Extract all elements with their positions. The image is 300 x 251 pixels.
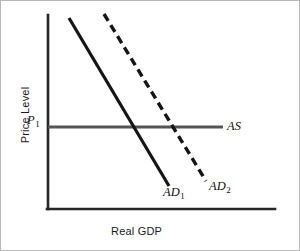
as-label: AS (227, 119, 241, 134)
ad1-label: AD1 (163, 185, 185, 200)
ad2-label-subscript: 2 (226, 185, 231, 195)
price-level-1-symbol: P (27, 113, 35, 127)
price-level-1-subscript: 1 (35, 119, 40, 129)
ad-as-plot (1, 1, 300, 251)
ad2-label: AD2 (209, 179, 231, 194)
ad2-label-text: AD (209, 179, 226, 193)
ad2-curve (104, 14, 206, 181)
figure-container: Price Level Real GDP P1 AD1 AD2 AS (0, 0, 300, 251)
x-axis-label: Real GDP (111, 225, 162, 237)
price-level-1-label: P1 (27, 113, 40, 128)
ad1-curve (69, 18, 169, 186)
ad1-label-text: AD (163, 185, 180, 199)
ad1-label-subscript: 1 (180, 191, 185, 201)
